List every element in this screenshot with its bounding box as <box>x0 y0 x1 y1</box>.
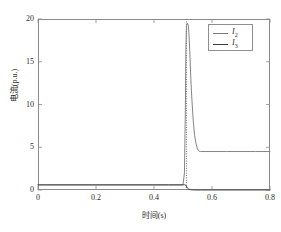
legend-line-icon-i3 <box>213 44 228 45</box>
chart-figure: 电流(p.u.) 时间(s) 05101520 00.20.40.60.8 I2… <box>0 0 281 232</box>
x-tick-label: 0.6 <box>197 194 227 202</box>
x-tick-label: 0.8 <box>255 194 281 202</box>
y-tick-label: 15 <box>4 58 34 66</box>
y-tick-label: 0 <box>4 186 34 194</box>
y-tick-label: 20 <box>4 15 34 23</box>
x-tick-label: 0.4 <box>139 194 169 202</box>
y-tick-label: 5 <box>4 143 34 151</box>
legend-label-i3: I3 <box>232 38 238 51</box>
legend-item-i2[interactable]: I2 <box>213 28 248 39</box>
legend-item-i3[interactable]: I3 <box>213 39 248 50</box>
x-tick-label: 0 <box>23 194 53 202</box>
y-tick-label: 10 <box>4 101 34 109</box>
legend-line-icon-i2 <box>213 33 228 34</box>
x-tick-label: 0.2 <box>81 194 111 202</box>
x-axis-title: 时间(s) <box>38 209 270 220</box>
legend-box[interactable]: I2 I3 <box>208 24 253 51</box>
